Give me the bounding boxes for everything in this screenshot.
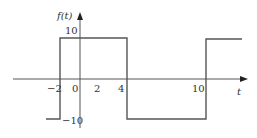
x-tick-neg2: −2 (47, 83, 62, 94)
t-axis-arrow-icon (240, 76, 248, 82)
y-tick-neg10: −10 (62, 115, 83, 126)
plot-area: f(t) t 10 −10 −2 0 2 4 10 (0, 0, 257, 138)
x-tick-0: 0 (72, 83, 78, 94)
x-tick-2: 2 (94, 83, 100, 94)
y-axis-label: f(t) (56, 10, 73, 21)
x-axis-label: t (237, 86, 242, 97)
square-wave-diagram: f(t) t 10 −10 −2 0 2 4 10 (0, 0, 257, 138)
x-tick-10: 10 (192, 83, 205, 94)
f-axis-arrow-icon (77, 12, 83, 20)
x-tick-4: 4 (118, 83, 124, 94)
y-tick-10: 10 (65, 25, 78, 36)
